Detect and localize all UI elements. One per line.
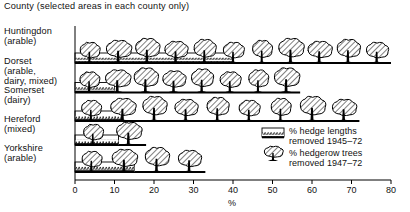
x-axis-tick-label: 40 xyxy=(221,185,245,195)
legend-label: % hedge lengths removed 1945–72 xyxy=(289,126,362,147)
tree-root-flare xyxy=(147,119,160,121)
tree-root-flare xyxy=(256,61,267,63)
x-axis-tick-label: 0 xyxy=(63,185,87,195)
row-label: Huntingdon (arable) xyxy=(4,26,52,46)
row-label: Dorset (arable, dairy, mixed) xyxy=(4,56,57,87)
hedgerow-removal-chart: County (selected areas in each county on… xyxy=(0,0,410,212)
tree-root-flare xyxy=(139,91,152,93)
chart-row xyxy=(75,96,359,121)
tree-root-flare xyxy=(342,61,355,63)
x-axis-tick-label: 10 xyxy=(103,185,127,195)
tree-root-flare xyxy=(196,91,208,93)
chart-row xyxy=(75,122,146,145)
row-label: Somerset (dairy) xyxy=(4,85,44,105)
x-axis-tick-label: 50 xyxy=(261,185,285,195)
tree-root-flare xyxy=(337,119,350,121)
tree-root-flare xyxy=(279,91,293,93)
legend-swatch xyxy=(264,146,283,161)
tree-root-flare xyxy=(150,170,163,172)
tree-root-flare xyxy=(305,119,319,121)
legend-label: % hedgerow trees removed 1947–72 xyxy=(289,148,362,169)
x-axis-tick-label: 70 xyxy=(340,185,364,195)
chart-row xyxy=(75,147,205,172)
tree-root-flare xyxy=(284,61,298,63)
chart-graphics xyxy=(0,0,410,212)
row-label: Yorkshire (arable) xyxy=(4,143,43,163)
x-axis-label: % xyxy=(228,198,236,208)
x-axis-tick-label: 30 xyxy=(182,185,206,195)
tree-root-flare xyxy=(253,91,264,93)
tree-root-flare xyxy=(211,119,223,121)
tree-root-flare xyxy=(179,119,192,121)
x-axis-tick-label: 60 xyxy=(300,185,324,195)
tree-root-flare xyxy=(224,91,235,93)
tree-root-flare xyxy=(371,61,383,63)
x-axis-tick-label: 20 xyxy=(142,185,166,195)
chart-row xyxy=(75,68,300,93)
chart-row xyxy=(75,38,391,63)
legend-swatch xyxy=(262,128,284,137)
tree-root-flare xyxy=(183,170,196,172)
row-label: Hereford (mixed) xyxy=(4,114,41,134)
tree-root-flare xyxy=(313,61,326,63)
tree-root-flare xyxy=(268,159,278,161)
tree-root-flare xyxy=(243,119,254,121)
tree-root-flare xyxy=(167,91,180,93)
x-axis-tick-label: 80 xyxy=(379,185,403,195)
tree-root-flare xyxy=(275,119,286,121)
tree-root-flare xyxy=(121,143,135,145)
